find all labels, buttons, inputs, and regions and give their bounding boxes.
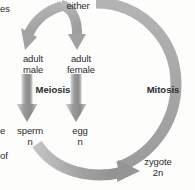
edge-text-fragment-lower-left: of bbox=[0, 151, 8, 162]
label-either: either bbox=[58, 1, 98, 12]
label-egg: egg n bbox=[58, 126, 102, 147]
label-adult-male: adult male bbox=[7, 54, 59, 75]
edge-text-fragment-top-left: es bbox=[0, 4, 10, 15]
edge-text-fragment-mid-left: e bbox=[0, 126, 5, 137]
life-cycle-diagram: either adult male adult female Meiosis M… bbox=[0, 0, 195, 190]
meiosis-female-arrow bbox=[66, 74, 87, 122]
label-mitosis: Mitosis bbox=[140, 85, 186, 96]
branch-to-adult-female-arrow bbox=[61, 5, 86, 50]
branch-to-adult-male-arrow bbox=[21, 6, 62, 50]
label-zygote: zygote 2n bbox=[136, 157, 180, 178]
meiosis-male-arrow bbox=[17, 74, 38, 122]
label-adult-female: adult female bbox=[54, 54, 108, 75]
label-meiosis: Meiosis bbox=[28, 85, 78, 96]
label-sperm: sperm n bbox=[6, 126, 54, 147]
